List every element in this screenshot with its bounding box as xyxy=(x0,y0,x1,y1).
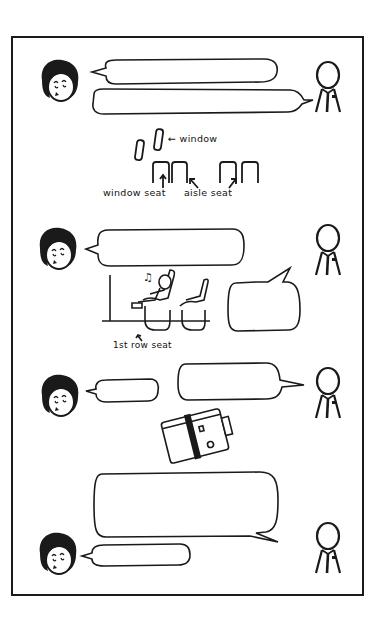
attendant-avatar xyxy=(316,225,340,275)
first-row-seat-label: 1st row seat xyxy=(113,340,172,350)
bubble-text-3 xyxy=(102,231,240,264)
bubble-text-1 xyxy=(110,60,270,82)
passenger-avatar xyxy=(42,375,79,416)
bubble-text-2 xyxy=(100,90,295,112)
first-row-illustration xyxy=(102,270,210,341)
aisle-seat-label: aisle seat xyxy=(184,187,232,198)
bubble-text-4 xyxy=(232,284,296,329)
music-note-icon: ♫ xyxy=(143,271,153,284)
passenger-avatar xyxy=(40,533,77,574)
bubble-text-8 xyxy=(96,546,186,565)
attendant-avatar xyxy=(316,368,340,418)
passenger-avatar xyxy=(42,60,79,101)
suitcase-illustration xyxy=(161,406,237,465)
passenger-avatar xyxy=(40,228,77,269)
bubble-text-7 xyxy=(98,475,274,535)
attendant-avatar xyxy=(316,62,340,112)
window-seat-label: window seat xyxy=(103,187,166,198)
bubble-text-6 xyxy=(182,365,276,398)
bubble-text-5 xyxy=(100,381,155,401)
window-label: ← window xyxy=(168,133,217,144)
attendant-avatar xyxy=(316,523,340,573)
